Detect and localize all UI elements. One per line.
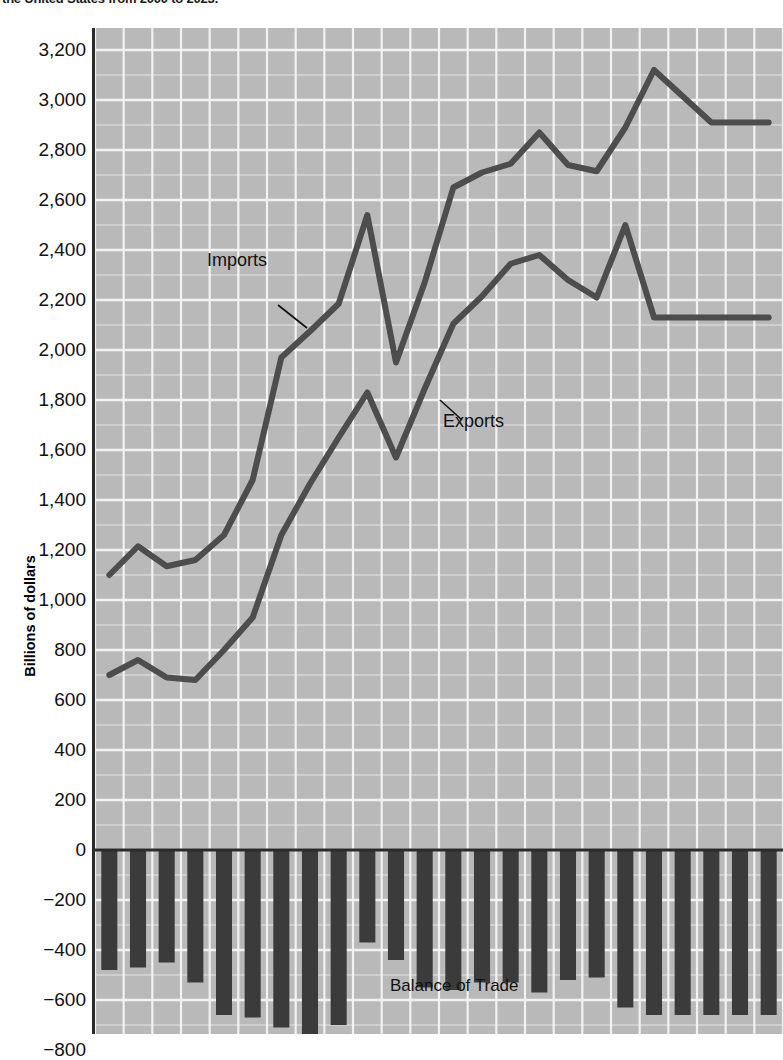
y-tick-label: 800: [8, 640, 86, 659]
plot-area: [95, 28, 783, 1034]
bar-balance-of-trade: [503, 850, 519, 983]
y-tick-label: 400: [8, 740, 86, 759]
y-tick-label: −200: [8, 890, 86, 909]
y-tick-label: 600: [8, 690, 86, 709]
y-tick-label: 2,400: [8, 240, 86, 259]
bar-balance-of-trade: [560, 850, 576, 980]
y-tick-label: 2,000: [8, 340, 86, 359]
bar-balance-of-trade: [101, 850, 117, 970]
bar-balance-of-trade: [187, 850, 203, 983]
bar-balance-of-trade: [245, 850, 261, 1018]
y-tick-label: −800: [8, 1040, 86, 1059]
chart-title-strip: the United States from 2000 to 2023.: [0, 0, 783, 14]
bar-balance-of-trade: [216, 850, 232, 1015]
bar-balance-of-trade: [302, 850, 318, 1034]
y-tick-label: 2,600: [8, 190, 86, 209]
y-tick-label: 0: [8, 840, 86, 859]
bar-balance-of-trade: [331, 850, 347, 1025]
bar-balance-of-trade: [359, 850, 375, 943]
y-tick-label: 3,000: [8, 90, 86, 109]
series-label-imports: Imports: [207, 250, 267, 271]
bar-balance-of-trade: [732, 850, 748, 1015]
bar-balance-of-trade: [474, 850, 490, 983]
bar-balance-of-trade: [703, 850, 719, 1015]
bar-balance-of-trade: [388, 850, 404, 960]
y-tick-label: 3,200: [8, 40, 86, 59]
y-tick-label: −600: [8, 990, 86, 1009]
bar-balance-of-trade: [531, 850, 547, 993]
bar-balance-of-trade: [646, 850, 662, 1015]
bar-balance-of-trade: [617, 850, 633, 1008]
series-label-balance-of-trade: Balance of Trade: [390, 976, 519, 996]
bar-balance-of-trade: [761, 850, 777, 1015]
y-tick-label: 2,800: [8, 140, 86, 159]
bar-balance-of-trade: [445, 850, 461, 990]
y-tick-label: 1,200: [8, 540, 86, 559]
y-tick-label: 1,000: [8, 590, 86, 609]
y-tick-label: 200: [8, 790, 86, 809]
y-tick-label: 1,400: [8, 490, 86, 509]
chart-canvas: [95, 28, 783, 1034]
y-tick-label: 1,600: [8, 440, 86, 459]
bar-balance-of-trade: [589, 850, 605, 978]
bar-balance-of-trade: [130, 850, 146, 968]
series-label-exports: Exports: [443, 411, 504, 432]
y-axis-tick-labels: 3,2003,0002,8002,6002,4002,2002,0001,800…: [0, 0, 86, 1034]
y-tick-label: −400: [8, 940, 86, 959]
y-tick-label: 2,200: [8, 290, 86, 309]
bar-balance-of-trade: [675, 850, 691, 1015]
bar-balance-of-trade: [159, 850, 175, 963]
bar-balance-of-trade: [417, 850, 433, 988]
bar-balance-of-trade: [273, 850, 289, 1028]
y-tick-label: 1,800: [8, 390, 86, 409]
